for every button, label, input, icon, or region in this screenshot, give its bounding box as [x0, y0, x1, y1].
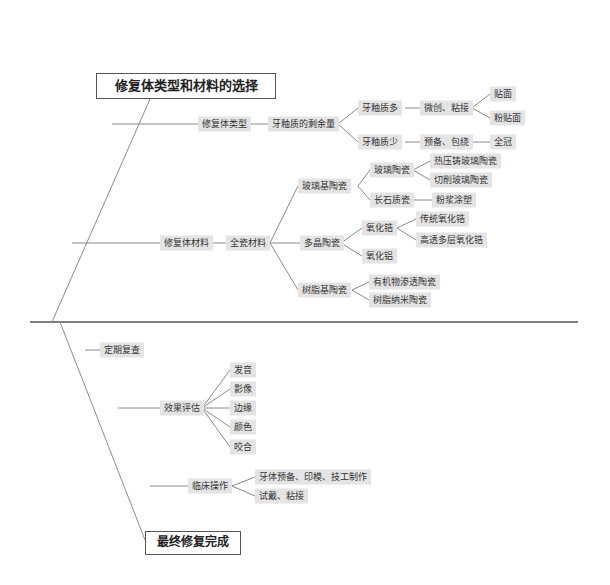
node-occlusion: 咬合 — [230, 440, 256, 455]
node-glass-matrix-ceramic: 玻璃基陶瓷 — [298, 179, 351, 194]
title-top-box: 修复体类型和材料的选择 — [96, 73, 276, 99]
node-pronunciation: 发音 — [230, 363, 256, 378]
node-resin-matrix-ceramic: 树脂基陶瓷 — [298, 283, 351, 298]
node-hot-pressed-glass-ceramic: 热压铸玻璃陶瓷 — [430, 154, 501, 169]
node-glass-ceramic: 玻璃陶瓷 — [370, 163, 414, 178]
node-infiltrated-ceramic: 有机物渗透陶瓷 — [369, 275, 440, 290]
node-restoration-material: 修复体材料 — [160, 236, 213, 251]
node-zirconia: 氧化锆 — [362, 221, 397, 236]
node-minimal-bonding: 微创、粘接 — [420, 101, 473, 116]
node-enamel-much: 牙釉质多 — [358, 101, 402, 116]
node-imaging: 影像 — [230, 382, 256, 397]
node-polycrystalline: 多晶陶瓷 — [300, 236, 344, 251]
node-resin-nano-ceramic: 树脂纳米陶瓷 — [369, 293, 431, 308]
node-enamel-little: 牙釉质少 — [358, 135, 402, 150]
node-tooth-prep-impression: 牙体预备、印模、技工制作 — [255, 470, 371, 485]
node-traditional-zirconia: 传统氧化锆 — [416, 212, 469, 227]
node-milled-glass-ceramic: 切削玻璃陶瓷 — [430, 173, 492, 188]
node-effect-evaluation: 效果评估 — [160, 401, 204, 416]
node-color: 颜色 — [230, 420, 256, 435]
node-feldspathic: 长石质瓷 — [370, 193, 414, 208]
node-regular-review: 定期复查 — [100, 343, 144, 358]
node-alumina: 氧化铝 — [362, 249, 397, 264]
node-clinical-operation: 临床操作 — [188, 479, 232, 494]
node-margin: 边缘 — [230, 401, 256, 416]
node-translucent-zirconia: 高透多层氧化锆 — [416, 233, 487, 248]
node-occlusal-veneer: 粉贴面 — [490, 111, 525, 126]
node-prep-wrap: 预备、包绕 — [420, 135, 473, 150]
node-try-in-bonding: 试戴、粘接 — [255, 489, 308, 504]
node-enamel-remaining: 牙釉质的剩余量 — [268, 117, 339, 132]
title-bottom-box: 最终修复完成 — [145, 531, 241, 555]
node-slip-casting: 粉浆涂塑 — [432, 193, 476, 208]
node-full-crown: 全冠 — [490, 135, 516, 150]
node-veneer: 贴面 — [490, 87, 516, 102]
node-restoration-type: 修复体类型 — [198, 117, 251, 132]
node-all-ceramic: 全瓷材料 — [226, 236, 270, 251]
